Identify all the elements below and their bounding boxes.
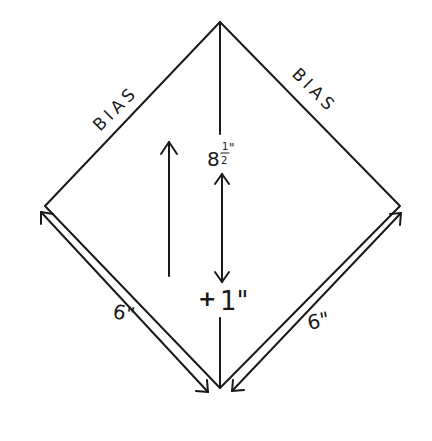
center-length-whole: 8 (207, 147, 220, 171)
allowance-plus: + (198, 286, 216, 311)
diagram-svg: BIAS BIAS 8 1 2 " + 1" 6" 6" (0, 0, 432, 441)
grainline-arrow-icon (161, 142, 177, 276)
edge-length-right: 6" (305, 307, 331, 335)
diagram-canvas: BIAS BIAS 8 1 2 " + 1" 6" 6" (0, 0, 432, 441)
allowance-label: + 1" (198, 286, 249, 316)
center-length-label: 8 1 2 " (207, 141, 235, 171)
edge-length-left: 6" (111, 299, 137, 326)
allowance-value: 1" (220, 286, 249, 316)
center-length-frac-den: 2 (221, 155, 227, 166)
bias-label-right: BIAS (288, 64, 341, 117)
center-length-frac-num: 1 (222, 141, 228, 152)
center-length-inch: " (229, 141, 235, 155)
bias-label-left: BIAS (89, 82, 142, 135)
center-dimension-arrow-icon (215, 174, 229, 282)
bottom-right-dimension-arrow-icon (232, 213, 401, 391)
